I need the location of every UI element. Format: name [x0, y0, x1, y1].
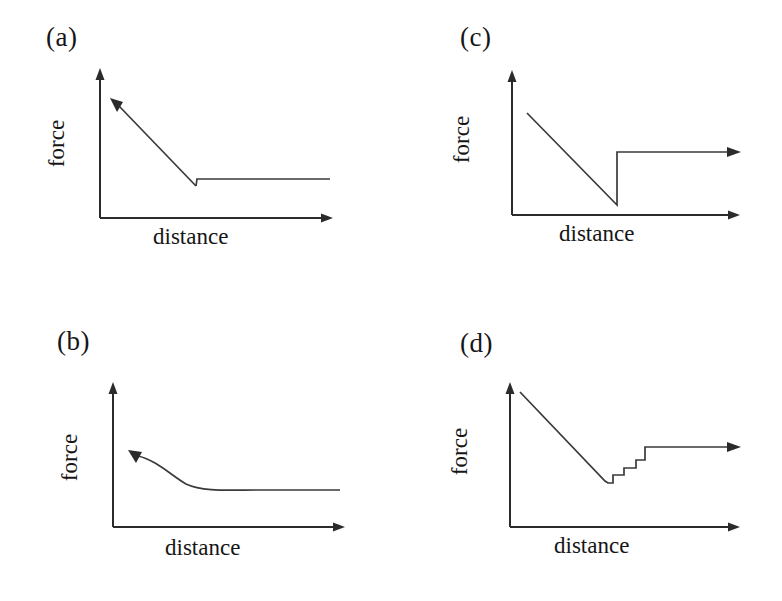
panel-b-x-axis [113, 523, 345, 532]
panel-b-data-curve [128, 450, 340, 490]
panel-c-x-axis [512, 211, 740, 220]
panel-d-x-axis [510, 523, 740, 532]
force-distance-figure: (a) force distance (c) force dista [0, 0, 782, 601]
panel-b-y-axis [109, 382, 118, 527]
panel-d: (d) force distance [391, 300, 782, 600]
panel-d-plot [391, 300, 782, 601]
panel-c-data-curve [527, 113, 741, 205]
panel-d-y-axis [506, 382, 515, 527]
panel-b: (b) force distance [0, 300, 391, 600]
panel-c-y-axis [508, 70, 517, 215]
panel-c-plot [391, 0, 782, 301]
panel-a-y-axis [96, 68, 105, 218]
panel-a-plot [0, 0, 391, 301]
panel-b-plot [0, 300, 391, 601]
panel-a: (a) force distance [0, 0, 391, 300]
panel-a-x-axis [100, 214, 333, 223]
panel-c: (c) force distance [391, 0, 782, 300]
panel-a-data-curve [110, 98, 330, 186]
panel-d-data-curve [520, 392, 741, 483]
